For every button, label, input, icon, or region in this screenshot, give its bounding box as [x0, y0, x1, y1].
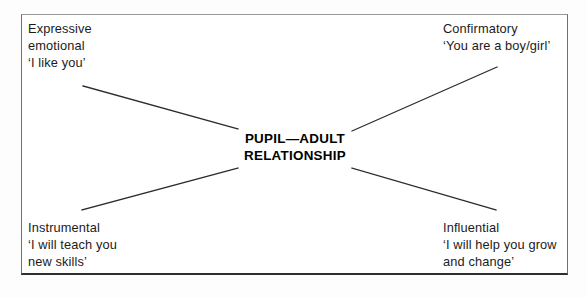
centre-hub-label: PUPIL—ADULT RELATIONSHIP: [237, 130, 353, 165]
node-label-instrumental: Instrumental ‘I will teach you new skill…: [28, 219, 117, 271]
connector-influential: [352, 168, 496, 210]
diagram-canvas: Expressive emotional ‘I like you’ Confir…: [0, 0, 587, 298]
connector-instrumental: [82, 168, 238, 210]
node-label-confirmatory: Confirmatory ‘You are a boy/girl’: [443, 20, 550, 54]
node-label-influential: Influential ‘I will help you grow and ch…: [443, 219, 557, 271]
connector-confirmatory: [352, 67, 497, 131]
node-label-expressive: Expressive emotional ‘I like you’: [28, 20, 92, 72]
connector-expressive: [83, 86, 238, 129]
